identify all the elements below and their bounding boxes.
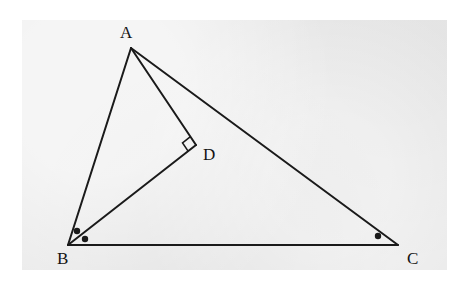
angle-dots-layer — [74, 228, 381, 242]
right-angle-at-D — [183, 137, 191, 151]
angle-dot-ACB — [375, 233, 381, 239]
segments-layer — [68, 48, 398, 245]
vertex-label-C: C — [407, 250, 418, 267]
right-angle-marks-layer — [183, 137, 191, 151]
vertex-label-D: D — [203, 146, 215, 163]
angle-dot-ABD — [74, 228, 80, 234]
angle-dot-DBC — [82, 236, 88, 242]
geometry-figure — [0, 0, 466, 284]
segment-AD — [131, 48, 196, 145]
segment-BD — [68, 145, 196, 245]
segment-AB — [68, 48, 131, 245]
diagram-page: A B C D — [0, 0, 466, 284]
vertex-label-A: A — [120, 24, 132, 41]
vertex-label-B: B — [57, 250, 68, 267]
segment-AC — [131, 48, 398, 245]
